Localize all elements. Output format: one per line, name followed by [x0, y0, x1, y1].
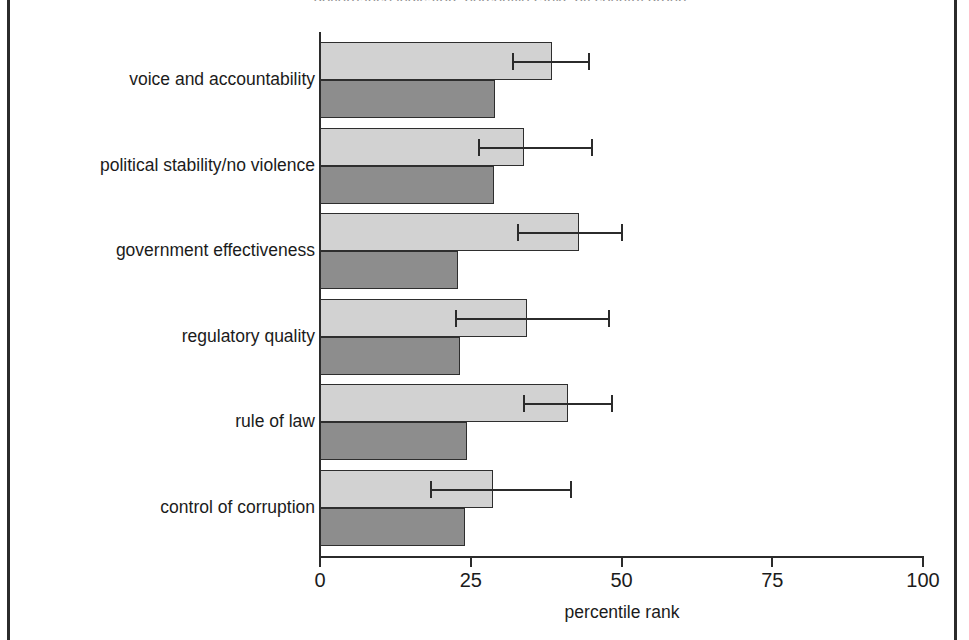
category-label-1: political stability/no violence — [100, 157, 315, 175]
bar-dark-5 — [320, 508, 465, 546]
error-bar-line-1 — [478, 147, 593, 149]
category-label-3: regulatory quality — [182, 328, 315, 346]
bar-dark-2 — [320, 251, 458, 289]
x-tick-label-50: 50 — [610, 570, 632, 590]
error-bar-2 — [517, 232, 623, 233]
x-tick-label-0: 0 — [314, 570, 325, 590]
error-cap-low-4 — [523, 395, 525, 412]
category-label-0: voice and accountability — [129, 71, 315, 89]
x-tick-50 — [621, 556, 623, 567]
x-tick-label-75: 75 — [761, 570, 783, 590]
error-cap-low-0 — [512, 53, 514, 70]
x-tick-100 — [922, 556, 924, 567]
error-bar-line-4 — [523, 403, 613, 405]
x-tick-25 — [470, 556, 472, 567]
error-cap-high-0 — [588, 53, 590, 70]
x-tick-75 — [771, 556, 773, 567]
error-cap-high-4 — [611, 395, 613, 412]
error-cap-low-2 — [517, 224, 519, 241]
error-cap-high-1 — [591, 139, 593, 156]
bar-dark-3 — [320, 337, 460, 375]
x-tick-0 — [319, 556, 321, 567]
error-cap-high-2 — [621, 224, 623, 241]
error-bar-line-0 — [512, 61, 590, 63]
bar-dark-1 — [320, 166, 494, 204]
x-tick-label-25: 25 — [460, 570, 482, 590]
category-label-4: rule of law — [235, 413, 315, 431]
x-tick-label-100: 100 — [906, 570, 939, 590]
error-cap-low-1 — [478, 139, 480, 156]
error-bar-3 — [455, 318, 610, 319]
error-bar-0 — [512, 61, 590, 62]
error-bar-line-3 — [455, 318, 610, 320]
error-bar-1 — [478, 147, 593, 148]
category-label-5: control of corruption — [160, 499, 315, 517]
error-bar-line-2 — [517, 232, 623, 234]
x-axis-title: percentile rank — [320, 604, 924, 622]
error-cap-low-5 — [430, 481, 432, 498]
category-label-2: government effectiveness — [116, 242, 315, 260]
bar-dark-4 — [320, 422, 467, 460]
error-bar-5 — [430, 489, 572, 490]
chart-plot-area: voice and accountabilitypolitical stabil… — [0, 0, 969, 640]
error-cap-high-3 — [608, 310, 610, 327]
error-cap-low-3 — [455, 310, 457, 327]
error-cap-high-5 — [570, 481, 572, 498]
error-bar-4 — [523, 403, 613, 404]
error-bar-line-5 — [430, 489, 572, 491]
bar-dark-0 — [320, 80, 495, 118]
